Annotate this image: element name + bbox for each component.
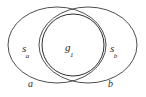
- left-region-label: sa: [22, 39, 30, 58]
- center-region-label: g1: [65, 38, 74, 57]
- bottom-left-label: a: [28, 79, 33, 89]
- bottom-right-label: b: [108, 79, 113, 89]
- diagram-canvas: sa g1 sb a b: [0, 0, 146, 97]
- right-region-label-subscript: b: [114, 52, 118, 60]
- left-region-label-subscript: a: [26, 52, 30, 60]
- right-region-label: sb: [110, 39, 118, 58]
- center-region-label-subscript: 1: [70, 51, 74, 59]
